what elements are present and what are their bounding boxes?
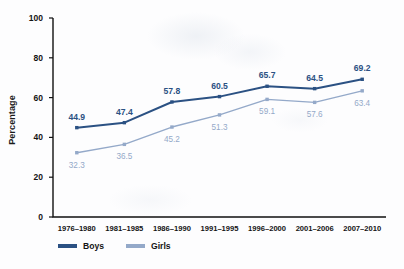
data-label-girls: 36.5 xyxy=(107,153,141,161)
y-tick-label: 100 xyxy=(15,14,43,23)
data-label-girls: 63.4 xyxy=(345,100,379,108)
legend-label-girls: Girls xyxy=(151,242,171,251)
y-tick-label: 60 xyxy=(15,94,43,103)
y-tick-label: 0 xyxy=(15,213,43,222)
data-label-boys: 57.8 xyxy=(155,87,189,96)
data-label-boys: 64.5 xyxy=(298,74,332,83)
axis-lines xyxy=(53,18,386,217)
y-tick-label: 20 xyxy=(15,173,43,182)
data-label-girls: 45.2 xyxy=(155,136,189,144)
data-label-boys: 47.4 xyxy=(107,108,141,117)
series-line-girls xyxy=(75,89,364,154)
data-label-boys: 65.7 xyxy=(250,71,284,80)
data-label-girls: 59.1 xyxy=(250,108,284,116)
chart-legend: Boys Girls xyxy=(58,242,171,251)
data-label-girls: 32.3 xyxy=(60,162,94,170)
y-tick-label: 80 xyxy=(15,54,43,63)
data-label-girls: 57.6 xyxy=(298,111,332,119)
line-chart: Percentage 020406080100 1976–19801981–19… xyxy=(0,0,404,269)
data-label-girls: 51.3 xyxy=(203,124,237,132)
x-tick-label: 2007–2010 xyxy=(332,225,392,233)
data-label-boys: 60.5 xyxy=(203,82,237,91)
data-label-boys: 44.9 xyxy=(60,113,94,122)
legend-swatch-girls xyxy=(126,244,145,248)
legend-item-boys[interactable]: Boys xyxy=(58,242,104,251)
legend-label-boys: Boys xyxy=(83,242,104,251)
legend-item-girls[interactable]: Girls xyxy=(126,242,171,251)
legend-swatch-boys xyxy=(58,244,77,248)
data-label-boys: 69.2 xyxy=(345,64,379,73)
y-tick-label: 40 xyxy=(15,133,43,142)
